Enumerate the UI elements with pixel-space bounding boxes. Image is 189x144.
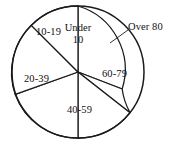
pie-label-40-59: 40-59: [67, 104, 92, 116]
pie-chart: Under 10 Over 80 60-79 40-59 20-39 10-19: [0, 0, 189, 144]
pie-label-20-39: 20-39: [24, 73, 49, 85]
pie-label-10-19: 10-19: [36, 26, 61, 38]
pie-label-under-10-line1: Under: [65, 22, 92, 33]
pie-label-over-80: Over 80: [128, 21, 163, 33]
pie-label-under-10: Under 10: [56, 22, 100, 45]
pie-label-60-79: 60-79: [102, 68, 127, 80]
pie-label-under-10-line2: 10: [73, 34, 84, 45]
